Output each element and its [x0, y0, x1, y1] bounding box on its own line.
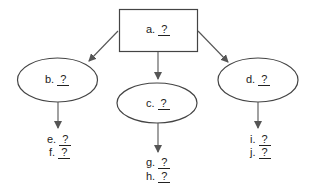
arrow-a-to-b	[89, 31, 118, 61]
blank-a[interactable]: ?	[158, 23, 170, 36]
blank-f[interactable]: ?	[58, 146, 70, 159]
blank-e[interactable]: ?	[59, 133, 71, 146]
leaf-f-label: f.?	[49, 146, 70, 159]
leaf-h-label: h.?	[146, 170, 170, 183]
blank-j[interactable]: ?	[259, 146, 271, 159]
node-b-label: b.?	[45, 73, 69, 86]
node-d-label: d.?	[246, 73, 270, 86]
blank-d[interactable]: ?	[258, 73, 270, 86]
arrow-a-to-d	[198, 31, 228, 62]
leaf-i-label: i.?	[250, 133, 271, 146]
leaf-e-label: e.?	[47, 133, 71, 146]
node-a-label: a.?	[146, 23, 170, 36]
blank-b[interactable]: ?	[57, 73, 69, 86]
leaf-g-label: g.?	[146, 156, 170, 169]
blank-h[interactable]: ?	[158, 170, 170, 183]
blank-i[interactable]: ?	[259, 133, 271, 146]
blank-c[interactable]: ?	[158, 97, 170, 110]
blank-g[interactable]: ?	[158, 156, 170, 169]
node-c-label: c.?	[146, 97, 170, 110]
leaf-j-label: j.?	[250, 146, 271, 159]
